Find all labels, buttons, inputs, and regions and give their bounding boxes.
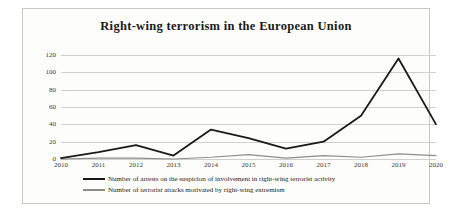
legend-line-swatch bbox=[83, 178, 105, 180]
y-axis-tick-label: 100 bbox=[46, 68, 57, 76]
series-line bbox=[61, 58, 436, 158]
x-axis-tick-label: 2013 bbox=[167, 161, 181, 169]
series-lines bbox=[61, 55, 436, 159]
x-axis-tick-label: 2019 bbox=[392, 161, 406, 169]
chart-title: Right-wing terrorism in the European Uni… bbox=[23, 19, 429, 34]
x-axis-tick-label: 2010 bbox=[54, 161, 68, 169]
series-line bbox=[61, 154, 436, 159]
x-axis-tick-label: 2012 bbox=[129, 161, 143, 169]
x-axis-tick-label: 2011 bbox=[92, 161, 106, 169]
x-axis-tick-label: 2018 bbox=[354, 161, 368, 169]
x-axis-tick-label: 2020 bbox=[429, 161, 443, 169]
legend-label: Number of arrests on the suspicion of in… bbox=[108, 175, 335, 183]
chart-legend: Number of arrests on the suspicion of in… bbox=[83, 175, 423, 197]
x-axis-tick-label: 2015 bbox=[242, 161, 256, 169]
gridline bbox=[61, 159, 436, 160]
y-axis-tick-label: 20 bbox=[49, 138, 56, 146]
plot-area: 020406080100120 201020112012201320142015… bbox=[61, 55, 436, 159]
legend-label: Number of terrorist attacks motivated by… bbox=[108, 186, 285, 194]
chart-frame: Right-wing terrorism in the European Uni… bbox=[22, 8, 430, 204]
y-axis-tick-label: 60 bbox=[49, 103, 56, 111]
x-axis-tick-label: 2014 bbox=[204, 161, 218, 169]
y-axis-tick-label: 80 bbox=[49, 86, 56, 94]
x-axis-tick-label: 2017 bbox=[317, 161, 331, 169]
x-axis-tick-label: 2016 bbox=[279, 161, 293, 169]
y-axis-tick-label: 120 bbox=[46, 51, 57, 59]
legend-item[interactable]: Number of arrests on the suspicion of in… bbox=[83, 175, 423, 183]
legend-item[interactable]: Number of terrorist attacks motivated by… bbox=[83, 186, 423, 194]
legend-line-swatch bbox=[83, 189, 105, 191]
y-axis-tick-label: 40 bbox=[49, 120, 56, 128]
